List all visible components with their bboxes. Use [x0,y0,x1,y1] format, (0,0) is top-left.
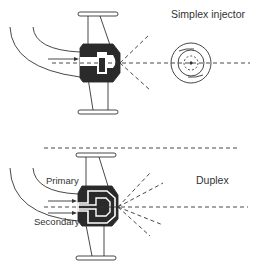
duplex-top-flange [76,153,116,157]
simplex-top-flange [78,12,118,16]
simplex-inner-pipe [33,27,80,52]
secondary-label: Secondary [34,216,79,227]
duplex-body [78,186,118,226]
duplex-title: Duplex [196,174,229,186]
duplex-bottom-flange [76,256,116,260]
simplex-end-view [171,43,211,83]
primary-label: Primary [46,175,79,186]
duplex-injector [10,153,248,260]
diagram-canvas [0,0,254,271]
simplex-injector [10,12,250,114]
simplex-title: Simplex injector [171,8,245,20]
injector-diagram: Simplex injector Duplex Primary Secondar… [0,0,254,271]
simplex-bottom-flange [78,110,118,114]
simplex-outer-pipe [10,27,80,77]
